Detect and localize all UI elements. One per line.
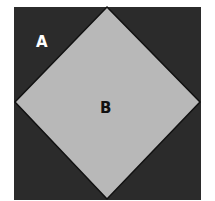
diagram-canvas: A B [0,0,215,201]
label-b: B [100,99,111,117]
label-a: A [36,33,48,51]
